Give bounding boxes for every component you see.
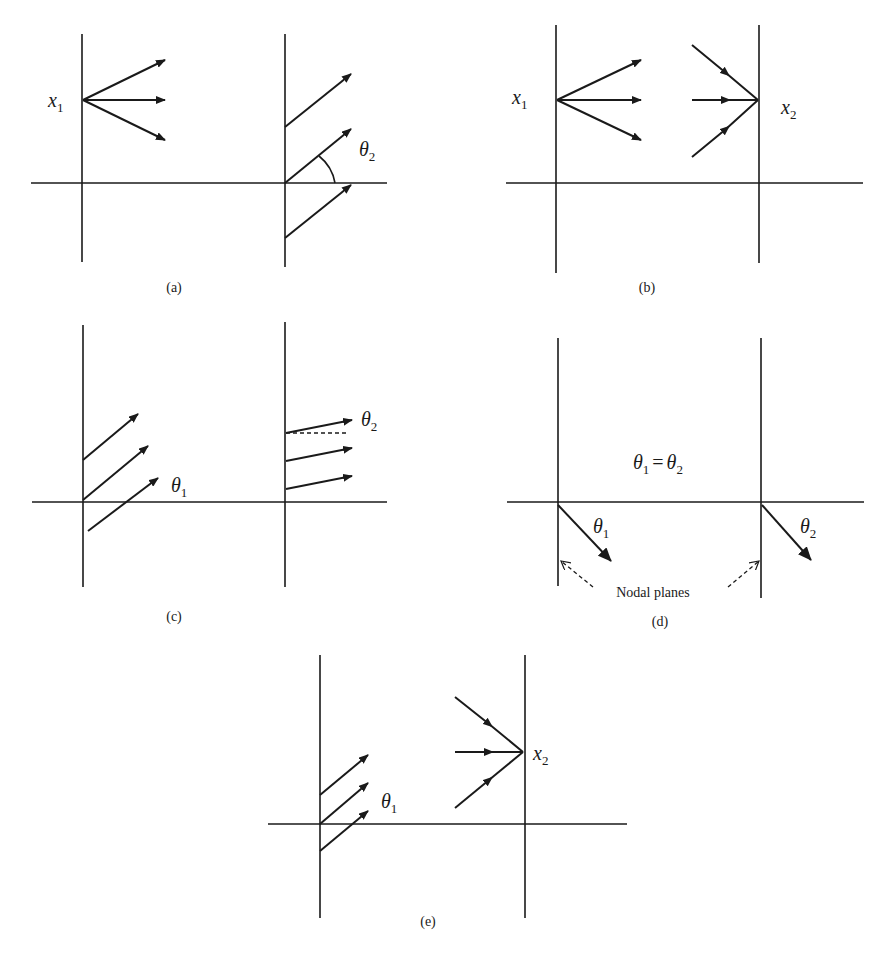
caption-e: (e): [420, 914, 436, 930]
converging-arrows: [455, 697, 523, 808]
plane-wave-arrows: [320, 755, 368, 851]
nodal-pointer-right: [728, 561, 759, 587]
label-x1: x1: [47, 89, 63, 115]
panel-d: θ1 θ2 θ1=θ2 Nodal planes (d): [507, 338, 864, 630]
label-theta2: θ2: [361, 408, 377, 434]
label-theta2: θ2: [800, 515, 816, 541]
equation-theta1-equals-theta2: θ1=θ2: [633, 451, 683, 477]
label-theta1: θ1: [381, 790, 397, 816]
label-x1: x1: [511, 86, 527, 112]
spherical-wave-arrows: [83, 60, 165, 140]
label-theta1: θ1: [171, 474, 187, 500]
transmitted-arrows: [286, 420, 352, 489]
label-x2: x2: [532, 742, 548, 768]
caption-d: (d): [652, 614, 669, 630]
panel-b: x1 x2 (b): [506, 25, 863, 296]
wave-diagram-figure: x1 θ2 (a) x1 x2 (b): [0, 0, 885, 959]
plane-wave-arrows: [285, 74, 351, 238]
caption-b: (b): [639, 280, 656, 296]
nodal-pointer-left: [561, 561, 593, 587]
caption-c: (c): [166, 609, 182, 625]
outgoing-arrows: [557, 60, 641, 140]
nodal-planes-label: Nodal planes: [616, 585, 689, 600]
label-theta1: θ1: [593, 515, 609, 541]
incident-arrows: [83, 414, 158, 531]
label-theta2: θ2: [359, 138, 375, 164]
angle-arc: [319, 156, 335, 183]
panel-a: x1 θ2 (a): [31, 34, 387, 296]
incoming-arrows: [692, 45, 758, 157]
caption-a: (a): [166, 280, 182, 296]
label-x2: x2: [780, 96, 796, 122]
panel-c: θ1 θ2 (c): [32, 322, 387, 625]
panel-e: θ1 x2 (e): [268, 655, 627, 930]
